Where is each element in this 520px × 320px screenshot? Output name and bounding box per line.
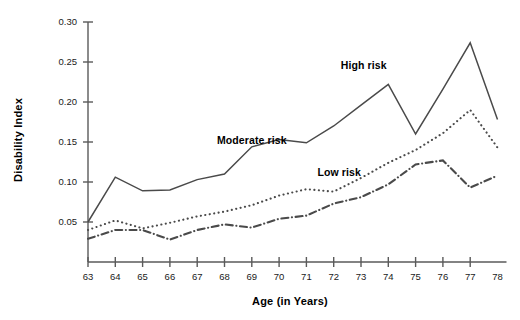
y-axis-tick-label: 0.30 — [59, 16, 78, 27]
x-axis-tick-label: 73 — [356, 271, 367, 282]
disability-index-line-chart: 0.050.100.150.200.250.30 636465666768697… — [0, 0, 520, 320]
x-axis-tick-label: 64 — [110, 271, 121, 282]
x-axis-title: Age (in Years) — [252, 295, 328, 307]
y-axis-tick-label: 0.10 — [59, 176, 78, 187]
y-axis-title: Disability Index — [12, 97, 24, 182]
x-axis-tick-label: 74 — [383, 271, 394, 282]
x-axis-tick-label: 71 — [301, 271, 312, 282]
chart-container: 0.050.100.150.200.250.30 636465666768697… — [0, 0, 520, 320]
x-axis-tick-label: 68 — [219, 271, 230, 282]
x-axis-tick-label: 70 — [274, 271, 285, 282]
x-axis-tick-label: 69 — [247, 271, 258, 282]
x-axis-tick-label: 72 — [328, 271, 339, 282]
x-axis-tick-label: 65 — [137, 271, 148, 282]
annotation-moderate-risk: Moderate risk — [217, 134, 287, 146]
annotation-high-risk: High risk — [341, 59, 387, 71]
x-axis-tick-label: 67 — [192, 271, 203, 282]
y-axis-tick-label: 0.05 — [59, 216, 78, 227]
x-axis-tick-label: 75 — [410, 271, 421, 282]
x-axis-tick-label: 66 — [165, 271, 176, 282]
y-axis-tick-label: 0.20 — [59, 96, 78, 107]
x-axis-tick-label: 63 — [83, 271, 94, 282]
x-axis-tick-label: 77 — [465, 271, 476, 282]
annotation-low-risk: Low risk — [317, 166, 360, 178]
x-axis-tick-label: 76 — [438, 271, 449, 282]
x-axis-tick-label: 78 — [492, 271, 503, 282]
y-axis-tick-label: 0.25 — [59, 56, 78, 67]
y-axis-tick-label: 0.15 — [59, 136, 78, 147]
